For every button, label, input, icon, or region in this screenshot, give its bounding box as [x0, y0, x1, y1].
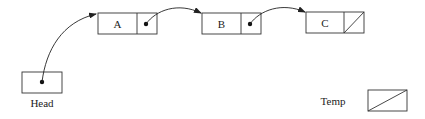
b-to-c-arrow-icon [250, 8, 305, 24]
node-a: A [98, 13, 157, 34]
node-c-box [306, 12, 364, 33]
head-label: Head [30, 97, 54, 109]
node-b: B [202, 13, 261, 34]
head-pointer: Head [22, 72, 62, 109]
temp-null-slash-icon [368, 90, 407, 111]
temp-pointer: Temp [321, 90, 407, 111]
node-a-box [98, 13, 157, 34]
temp-label: Temp [321, 95, 346, 107]
node-b-value: B [218, 18, 225, 30]
node-c-value: C [321, 17, 328, 29]
node-c: C [306, 12, 364, 33]
linked-list-diagram: Head A B C Temp [0, 0, 425, 119]
node-a-value: A [114, 18, 122, 30]
node-c-null-slash-icon [344, 12, 364, 33]
a-to-b-arrow-icon [146, 8, 201, 24]
node-b-box [202, 13, 261, 34]
